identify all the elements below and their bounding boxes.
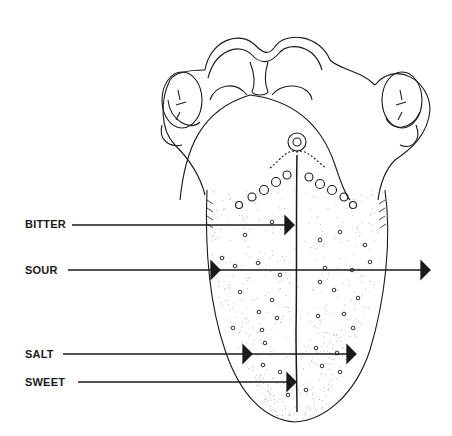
label-sweet: SWEET: [25, 376, 65, 388]
arrowhead-icon: [285, 216, 294, 234]
arrowhead-icon: [347, 345, 356, 363]
arrowhead-icon: [421, 261, 430, 279]
label-bitter: BITTER: [25, 218, 66, 230]
label-salt: SALT: [25, 348, 54, 360]
arrowhead-icon: [243, 345, 252, 363]
tongue-diagram: BITTER SOUR SALT SWEET: [0, 0, 452, 436]
tongue-illustration: [0, 0, 452, 436]
arrowhead-icon: [211, 261, 220, 279]
label-sour: SOUR: [25, 264, 58, 276]
arrowhead-icon: [287, 373, 296, 391]
